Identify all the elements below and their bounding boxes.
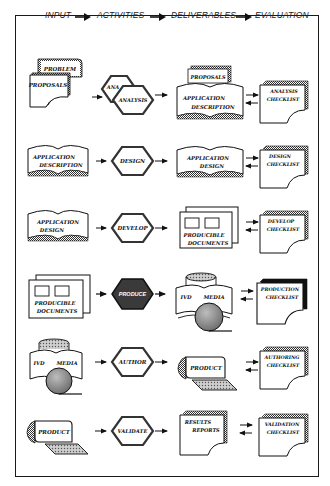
input-application-description: APPLICATION DESCRIPTION — [28, 146, 88, 177]
input-producible-documents: PRODUCIBLE DOCUMENTS — [29, 275, 90, 318]
label-analysis: ANALYSIS — [269, 88, 298, 94]
label-checklist: CHECKLIST — [267, 226, 300, 232]
evaluation-design-checklist: DESIGN CHECKLIST — [260, 146, 308, 188]
label-production: PRODUCTION — [260, 286, 300, 292]
activity-produce: PRODUCE — [112, 279, 153, 309]
label-documents: DOCUMENTS — [187, 240, 229, 246]
label-develop: DEVELOP — [116, 225, 148, 231]
label-application: APPLICATION — [186, 155, 229, 161]
input-product: PRODUCT — [27, 421, 88, 454]
label-product: PRODUCT — [189, 365, 222, 371]
label-proposals: PROPOSALS — [189, 74, 225, 80]
deliverable-results-reports: RESULTS REPORTS — [180, 411, 227, 455]
label-design: DESIGN — [199, 163, 224, 169]
label-producible: PRODUCIBLE — [182, 232, 225, 238]
label-design: DESIGN — [119, 158, 146, 164]
deliverable-application-design: APPLICATION DESIGN — [177, 147, 243, 178]
label-ivd: IVD — [179, 294, 192, 300]
input-problem-proposals: PROBLEM PROPOSALS — [28, 59, 82, 107]
label-results: RESULTS — [184, 419, 212, 425]
evaluation-production-checklist: PRODUCTION CHECKLIST — [257, 279, 307, 324]
label-application: APPLICATION — [182, 95, 225, 101]
row-analysis: PROBLEM PROPOSALS ANA ANALYSIS PROPOSALS… — [28, 59, 308, 123]
input-application-design: APPLICATION DESIGN — [28, 211, 88, 242]
label-ivd: IVD — [32, 360, 45, 366]
label-develop: DEVELOP — [267, 218, 295, 224]
label-validation: VALIDATION — [265, 421, 300, 427]
label-problem: PROBLEM — [43, 66, 77, 72]
process-diagram: PROBLEM PROPOSALS ANA ANALYSIS PROPOSALS… — [0, 0, 330, 486]
evaluation-analysis-checklist: ANALYSIS CHECKLIST — [260, 81, 308, 123]
deliverable-product: PRODUCT — [178, 357, 237, 390]
label-design: DESIGN — [39, 227, 64, 233]
deliverable-application-description: PROPOSALS APPLICATION DESCRIPTION — [177, 66, 243, 119]
label-description: DESCRIPTION — [38, 162, 83, 168]
label-checklist: CHECKLIST — [267, 362, 300, 368]
row-design: APPLICATION DESCRIPTION DESIGN APPLICATI… — [28, 146, 308, 189]
input-ivd-media: IVD MEDIA — [30, 339, 82, 394]
label-checklist: CHECKLIST — [267, 429, 300, 435]
label-media: MEDIA — [55, 360, 77, 366]
label-application: APPLICATION — [36, 219, 79, 225]
label-ana: ANA — [106, 84, 119, 90]
label-author: AUTHOR — [118, 359, 147, 365]
row-develop: APPLICATION DESIGN DEVELOP PRODUCIBLE DO… — [28, 207, 308, 253]
evaluation-validation-checklist: VALIDATION CHECKLIST — [259, 414, 308, 456]
label-proposals: PROPOSALS — [28, 82, 68, 88]
label-product: PRODUCT — [37, 429, 70, 435]
label-reports: REPORTS — [191, 427, 220, 433]
label-design: DESIGN — [268, 153, 292, 159]
label-checklist: CHECKLIST — [267, 161, 300, 167]
deliverable-ivd-media: IVD MEDIA — [176, 273, 232, 331]
label-description: DESCRIPTION — [190, 104, 235, 110]
evaluation-authoring-checklist: AUTHORING CHECKLIST — [260, 347, 308, 389]
label-validate: VALIDATE — [118, 428, 149, 434]
activity-author: AUTHOR — [112, 348, 153, 376]
evaluation-develop-checklist: DEVELOP CHECKLIST — [260, 211, 308, 253]
activity-design: DESIGN — [112, 147, 153, 175]
label-media: MEDIA — [202, 294, 224, 300]
label-authoring: AUTHORING — [264, 354, 300, 360]
label-documents: DOCUMENTS — [36, 308, 78, 314]
row-author: IVD MEDIA AUTHOR PRODUCT AUTHORING CHECK… — [30, 339, 308, 394]
row-validate: PRODUCT VALIDATE RESULTS REPORTS VALIDAT… — [27, 411, 308, 456]
activity-validate: VALIDATE — [112, 417, 153, 445]
label-analysis: ANALYSIS — [118, 97, 148, 103]
label-produce: PRODUCE — [119, 291, 147, 297]
row-produce: PRODUCIBLE DOCUMENTS PRODUCE IVD MEDIA P… — [29, 273, 307, 331]
activity-develop: DEVELOP — [112, 214, 153, 242]
deliverable-producible-documents: PRODUCIBLE DOCUMENTS — [180, 207, 238, 248]
label-checklist: CHECKLIST — [267, 96, 300, 102]
label-producible: PRODUCIBLE — [33, 300, 76, 306]
label-checklist: CHECKLIST — [266, 294, 299, 300]
activity-analysis: ANA ANALYSIS — [102, 76, 153, 114]
label-application: APPLICATION — [32, 154, 75, 160]
